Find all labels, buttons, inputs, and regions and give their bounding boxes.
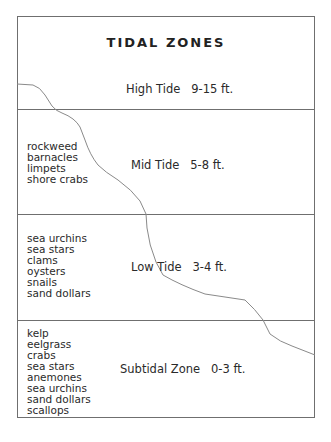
species-item: shore crabs bbox=[27, 174, 88, 185]
species-item: sand dollars bbox=[27, 288, 91, 299]
species-item: scallops bbox=[27, 405, 91, 416]
species-list-mid-tide: rockweed barnacles limpets shore crabs bbox=[27, 141, 88, 185]
zone-label-low-tide: Low Tide 3-4 ft. bbox=[131, 260, 227, 274]
zone-label-subtidal: Subtidal Zone 0-3 ft. bbox=[120, 362, 245, 376]
zone-label-mid-tide: Mid Tide 5-8 ft. bbox=[131, 158, 225, 172]
zone-label-high-tide: High Tide 9-15 ft. bbox=[126, 82, 233, 96]
species-list-low-tide: sea urchins sea stars clams oysters snai… bbox=[27, 233, 91, 299]
species-list-subtidal: kelp eelgrass crabs sea stars anemones s… bbox=[27, 328, 91, 416]
